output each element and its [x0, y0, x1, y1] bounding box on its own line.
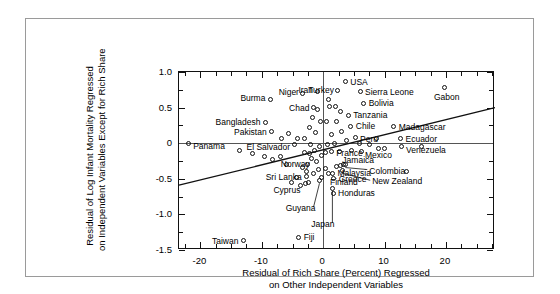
y-tick-label: 0: [136, 137, 172, 148]
point-label: Niger: [279, 88, 299, 97]
point-label: Peru: [360, 135, 378, 144]
point-label: Turkey: [308, 86, 334, 95]
point-label: Panama: [193, 142, 225, 151]
point-label: Sri Lanka: [266, 173, 302, 182]
y-tick-label: -0.5: [136, 172, 172, 183]
point-label: Greece: [339, 175, 367, 184]
point-label: Gabon: [434, 93, 460, 102]
x-tick-label: -10: [254, 255, 268, 266]
y-axis-label-line1: Residual of Log Infant Mortality Regress…: [84, 66, 95, 246]
y-axis-label-line2: on Independent Variables Except for Rich…: [96, 48, 107, 251]
point-label: Jamaica: [342, 156, 374, 165]
x-tick-label: 10: [378, 255, 389, 266]
point-label: Guyana: [286, 204, 316, 213]
point-label: El Salvador: [247, 143, 290, 152]
y-tick-label: 1.0: [136, 66, 172, 77]
y-axis-label: Residual of Log Infant Mortality Regress…: [84, 61, 108, 251]
point-label: Venezuela: [406, 146, 446, 155]
point-label: New Zealand: [372, 177, 422, 186]
y-axis-tick: [179, 250, 185, 251]
point-label: Sierra Leone: [365, 88, 414, 97]
y-tick-label: 0.5: [136, 101, 172, 112]
figure-border: Residual of Log Infant Mortality Regress…: [25, 18, 534, 277]
point-label: Pakistan: [234, 128, 267, 137]
point-label: Chad: [289, 104, 309, 113]
point-label: Norway: [281, 160, 310, 169]
plot-area: PanamaTaiwanBurmaBangladeshPakistanEl Sa…: [178, 71, 494, 249]
chart-page: Residual of Log Infant Mortality Regress…: [0, 0, 560, 294]
point-label: Chile: [356, 122, 375, 131]
x-axis-label-line2: on Other Independent Variables: [269, 279, 403, 290]
point-label: Taiwan: [212, 237, 238, 246]
point-label: Honduras: [338, 189, 375, 198]
y-tick-label: -1.5: [136, 244, 172, 255]
y-tick-label: -1.0: [136, 208, 172, 219]
x-tick-label: 20: [440, 255, 451, 266]
point-label: Cyprus: [273, 186, 300, 195]
x-tick-label: 0: [320, 255, 325, 266]
point-label: Japan: [311, 220, 334, 229]
x-axis-label-line1: Residual of Rich Share (Percent) Regress…: [242, 267, 429, 278]
point-label: Burma: [240, 94, 265, 103]
point-label: Colombia: [369, 167, 405, 176]
point-label: Tanzania: [353, 111, 387, 120]
point-label: Fiji: [304, 233, 315, 242]
x-axis-label: Residual of Rich Share (Percent) Regress…: [178, 267, 494, 291]
y-axis-tick: [487, 250, 493, 251]
point-label: Bolivia: [369, 99, 394, 108]
point-label: Ecuador: [406, 135, 438, 144]
point-label: Bangladesh: [216, 118, 261, 127]
point-label: USA: [350, 78, 367, 87]
x-tick-label: -20: [193, 255, 207, 266]
point-label: Madagascar: [399, 123, 446, 132]
